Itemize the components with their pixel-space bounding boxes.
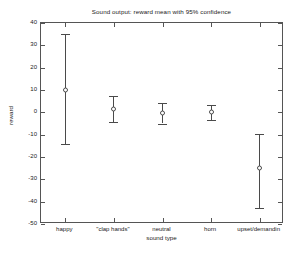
x-axis-tick-label: "clap hands" bbox=[96, 226, 129, 232]
y-axis-tick-label: -30 bbox=[15, 175, 37, 181]
y-axis-tick-label: -10 bbox=[15, 131, 37, 137]
y-axis-tick bbox=[278, 135, 282, 136]
y-axis-tick bbox=[41, 135, 45, 136]
x-axis-label: sound type bbox=[40, 234, 283, 241]
y-axis-tick-label: -20 bbox=[15, 153, 37, 159]
data-point-marker bbox=[63, 88, 68, 93]
y-axis-tick bbox=[41, 68, 45, 69]
y-axis-tick bbox=[278, 68, 282, 69]
error-bar-upper-cap bbox=[109, 96, 118, 97]
error-bar-stem bbox=[259, 134, 260, 209]
y-axis-tick-label: -40 bbox=[15, 198, 37, 204]
error-bar-upper-cap bbox=[158, 103, 167, 104]
plot-area bbox=[40, 22, 283, 223]
error-bar bbox=[60, 23, 71, 224]
y-axis-tick-label: 20 bbox=[15, 64, 37, 70]
error-bar-upper-cap bbox=[61, 34, 70, 35]
error-bar bbox=[157, 23, 168, 224]
x-axis-tick-label: horn bbox=[204, 226, 216, 232]
y-axis-tick bbox=[278, 23, 282, 24]
y-axis-tick bbox=[278, 202, 282, 203]
y-axis-tick-label: -50 bbox=[15, 220, 37, 226]
y-axis-tick bbox=[41, 202, 45, 203]
y-axis-tick bbox=[278, 112, 282, 113]
y-axis-tick bbox=[41, 112, 45, 113]
error-bar-lower-cap bbox=[109, 122, 118, 123]
error-bar-lower-cap bbox=[158, 124, 167, 125]
y-axis-tick-label: 30 bbox=[15, 41, 37, 47]
y-axis-tick bbox=[41, 179, 45, 180]
y-axis-tick bbox=[41, 23, 45, 24]
x-axis-tick-label: upset/demandin bbox=[237, 226, 280, 232]
error-bar bbox=[108, 23, 119, 224]
x-axis-tick-label: neutral bbox=[152, 226, 170, 232]
error-bar-lower-cap bbox=[207, 120, 216, 121]
y-axis-tick-label: 40 bbox=[15, 19, 37, 25]
chart-title: Sound output: reward mean with 95% confi… bbox=[40, 8, 283, 15]
chart-figure: Sound output: reward mean with 95% confi… bbox=[0, 0, 298, 258]
error-bar bbox=[254, 23, 265, 224]
error-bar-lower-cap bbox=[61, 144, 70, 145]
y-axis-tick bbox=[278, 224, 282, 225]
y-axis-tick bbox=[278, 45, 282, 46]
y-axis-tick bbox=[278, 90, 282, 91]
data-point-marker bbox=[209, 109, 214, 114]
y-axis-tick bbox=[278, 157, 282, 158]
error-bar-lower-cap bbox=[255, 208, 264, 209]
y-axis-tick bbox=[41, 157, 45, 158]
data-point-marker bbox=[160, 111, 165, 116]
y-axis-tick bbox=[278, 179, 282, 180]
y-axis-tick-label: 10 bbox=[15, 86, 37, 92]
error-bar-upper-cap bbox=[255, 134, 264, 135]
y-axis-tick bbox=[41, 224, 45, 225]
x-axis-tick-label: happy bbox=[56, 226, 72, 232]
data-point-marker bbox=[257, 166, 262, 171]
y-axis-tick bbox=[41, 45, 45, 46]
y-axis-tick-label: 0 bbox=[15, 108, 37, 114]
error-bar bbox=[206, 23, 217, 224]
y-axis-tick bbox=[41, 90, 45, 91]
y-axis-label: reward bbox=[7, 96, 14, 136]
data-point-marker bbox=[111, 106, 116, 111]
error-bar-upper-cap bbox=[207, 105, 216, 106]
